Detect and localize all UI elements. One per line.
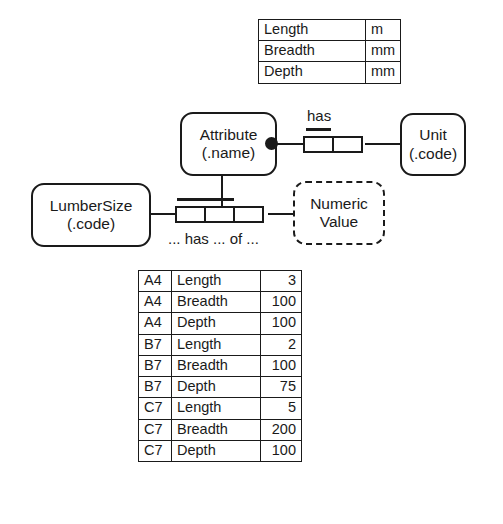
uniqueness-constraint-bar-has: [306, 128, 331, 131]
table-row: Breadth mm: [259, 41, 401, 62]
population-attribute-cell: Length: [172, 271, 261, 292]
connector-ternary-to-numeric-value: [268, 213, 296, 215]
population-attribute-cell: Depth: [172, 377, 261, 398]
population-code-cell: B7: [139, 334, 172, 355]
table-row: B7 Length 2: [139, 334, 302, 355]
object-type-attribute-reference: (.name): [202, 144, 255, 162]
role-box-ternary-3[interactable]: [233, 206, 264, 223]
unit-reference-table: Length m Breadth mm Depth mm: [258, 19, 401, 84]
table-row: A4 Length 3: [139, 271, 302, 292]
unit-table-attribute-cell: Breadth: [259, 41, 366, 62]
object-type-unit-name: Unit: [419, 126, 447, 144]
predicate-ternary[interactable]: [175, 206, 264, 223]
mandatory-role-dot-icon: [265, 137, 278, 150]
table-row: C7 Length 5: [139, 398, 302, 419]
population-code-cell: C7: [139, 440, 172, 461]
object-type-attribute-name: Attribute: [200, 126, 258, 144]
population-table: A4 Length 3 A4 Breadth 100 A4 Depth 100 …: [138, 270, 302, 462]
object-type-unit-reference: (.code): [409, 145, 457, 163]
connector-lumbersize-to-ternary: [149, 213, 177, 215]
role-box-has-2[interactable]: [332, 136, 363, 153]
object-type-numeric-value-name: Numeric: [310, 195, 368, 213]
population-value-cell: 5: [261, 398, 302, 419]
role-box-has-1[interactable]: [303, 136, 334, 153]
population-value-cell: 200: [261, 419, 302, 440]
table-row: C7 Depth 100: [139, 440, 302, 461]
population-value-cell: 2: [261, 334, 302, 355]
predicate-label-ternary: ... has ... of ...: [168, 231, 259, 246]
unit-table-unit-cell: mm: [366, 62, 401, 83]
unit-table-unit-cell: mm: [366, 41, 401, 62]
unit-table-body: Length m Breadth mm Depth mm: [259, 20, 401, 84]
object-type-unit[interactable]: Unit (.code): [400, 113, 466, 176]
population-attribute-cell: Depth: [172, 440, 261, 461]
population-attribute-cell: Breadth: [172, 419, 261, 440]
orm-diagram-canvas: Length m Breadth mm Depth mm Attribute (…: [0, 0, 503, 524]
object-type-lumbersize-name: LumberSize: [50, 197, 133, 215]
connector-has-predicate-to-unit: [365, 143, 402, 145]
table-row: Length m: [259, 20, 401, 41]
predicate-has[interactable]: [303, 136, 363, 153]
table-row: B7 Breadth 100: [139, 355, 302, 376]
table-row: Depth mm: [259, 62, 401, 83]
population-attribute-cell: Length: [172, 334, 261, 355]
table-row: A4 Depth 100: [139, 313, 302, 334]
population-code-cell: C7: [139, 419, 172, 440]
population-attribute-cell: Breadth: [172, 292, 261, 313]
object-type-lumbersize-reference: (.code): [67, 215, 115, 233]
population-value-cell: 100: [261, 440, 302, 461]
connector-attribute-to-ternary: [221, 174, 223, 208]
object-type-numeric-value[interactable]: Numeric Value: [293, 181, 385, 245]
population-attribute-cell: Breadth: [172, 355, 261, 376]
population-value-cell: 100: [261, 292, 302, 313]
uniqueness-constraint-bar-ternary: [177, 198, 234, 201]
role-box-ternary-1[interactable]: [175, 206, 206, 223]
population-code-cell: A4: [139, 292, 172, 313]
predicate-label-has: has: [307, 108, 331, 123]
table-row: C7 Breadth 200: [139, 419, 302, 440]
population-code-cell: A4: [139, 271, 172, 292]
object-type-numeric-value-line2: Value: [320, 213, 359, 231]
object-type-attribute[interactable]: Attribute (.name): [180, 112, 277, 176]
population-attribute-cell: Depth: [172, 313, 261, 334]
population-code-cell: A4: [139, 313, 172, 334]
population-attribute-cell: Length: [172, 398, 261, 419]
unit-table-attribute-cell: Depth: [259, 62, 366, 83]
population-code-cell: B7: [139, 377, 172, 398]
population-value-cell: 100: [261, 313, 302, 334]
unit-table-unit-cell: m: [366, 20, 401, 41]
table-row: B7 Depth 75: [139, 377, 302, 398]
unit-table-attribute-cell: Length: [259, 20, 366, 41]
population-value-cell: 3: [261, 271, 302, 292]
population-table-body: A4 Length 3 A4 Breadth 100 A4 Depth 100 …: [139, 271, 302, 462]
population-value-cell: 100: [261, 355, 302, 376]
table-row: A4 Breadth 100: [139, 292, 302, 313]
population-code-cell: B7: [139, 355, 172, 376]
role-box-ternary-2[interactable]: [204, 206, 235, 223]
object-type-lumbersize[interactable]: LumberSize (.code): [31, 183, 151, 247]
population-code-cell: C7: [139, 398, 172, 419]
population-value-cell: 75: [261, 377, 302, 398]
